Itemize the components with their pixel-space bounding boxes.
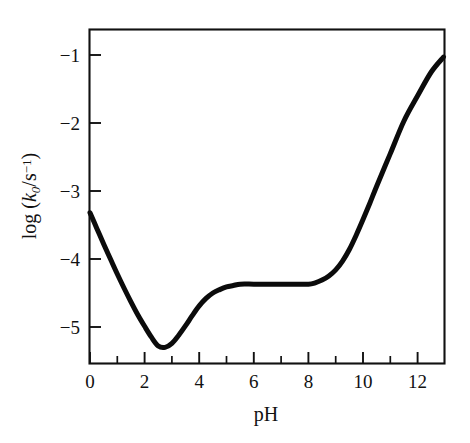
y-axis-title: log (k0/s−1) — [18, 153, 43, 239]
x-axis-title: pH — [254, 403, 278, 426]
y-tick-label: −1 — [60, 45, 80, 66]
x-tick-label: 10 — [354, 371, 373, 392]
y-tick-labels: −1 −2 −3 −4 −5 — [60, 45, 81, 338]
y-tick-label: −4 — [60, 249, 81, 270]
ph-rate-curve — [90, 57, 444, 348]
y-tick-label: −2 — [60, 113, 80, 134]
x-axis-major-ticks — [90, 352, 418, 364]
y-axis-title-suffix: ) — [18, 153, 41, 160]
ph-rate-profile-chart: −1 −2 −3 −4 −5 0 2 4 6 8 10 12 pH log (k… — [0, 0, 470, 443]
y-tick-label: −5 — [60, 317, 80, 338]
x-tick-label: 8 — [304, 371, 314, 392]
plot-frame — [90, 30, 445, 364]
chart-figure: −1 −2 −3 −4 −5 0 2 4 6 8 10 12 pH log (k… — [0, 0, 470, 443]
y-axis-title-prefix: log ( — [18, 202, 41, 240]
y-tick-label: −3 — [60, 181, 80, 202]
svg-text:log (k0/s−1): log (k0/s−1) — [18, 153, 43, 239]
y-axis-ticks — [90, 55, 102, 327]
x-tick-label: 6 — [249, 371, 259, 392]
x-tick-labels: 0 2 4 6 8 10 12 — [85, 371, 427, 392]
y-axis-title-middle: /s — [18, 173, 40, 187]
x-tick-label: 4 — [194, 371, 204, 392]
x-tick-label: 0 — [85, 371, 95, 392]
y-axis-title-superscript: −1 — [19, 159, 34, 173]
x-tick-label: 2 — [140, 371, 150, 392]
x-tick-label: 12 — [408, 371, 427, 392]
